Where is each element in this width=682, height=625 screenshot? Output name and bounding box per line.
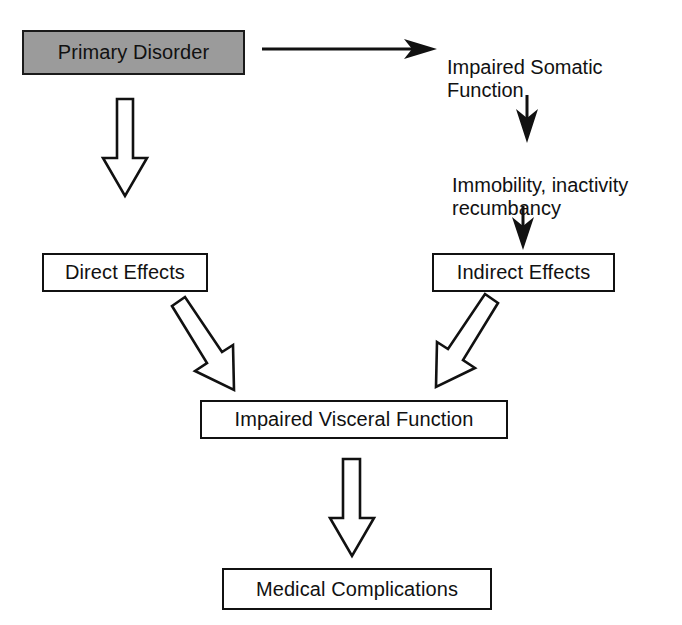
node-impaired-somatic-function-label: Impaired Somatic Function — [447, 56, 603, 102]
node-direct-effects[interactable]: Direct Effects — [42, 253, 208, 292]
node-primary-disorder[interactable]: Primary Disorder — [22, 30, 245, 75]
flowchart-canvas: Primary Disorder Impaired Somatic Functi… — [0, 0, 682, 625]
node-impaired-visceral-function[interactable]: Impaired Visceral Function — [200, 400, 508, 439]
node-indirect-effects[interactable]: Indirect Effects — [432, 253, 615, 292]
arrow-indirect-effects-to-impaired-visceral — [436, 294, 498, 387]
node-primary-disorder-label: Primary Disorder — [58, 41, 210, 64]
node-impaired-visceral-function-label: Impaired Visceral Function — [234, 408, 473, 431]
arrow-direct-effects-to-impaired-visceral — [172, 297, 234, 390]
node-immobility-label: Immobility, inactivity recumbancy — [452, 174, 628, 220]
arrow-primary-disorder-to-direct-effects — [103, 99, 147, 196]
arrow-primary-disorder-to-impaired-somatic — [262, 39, 437, 59]
node-impaired-somatic-function: Impaired Somatic Function — [447, 32, 662, 103]
arrow-impaired-visceral-to-medical-complications — [330, 459, 374, 556]
node-immobility-inactivity-recumbancy: Immobility, inactivity recumbancy — [452, 150, 677, 221]
node-medical-complications-label: Medical Complications — [256, 578, 458, 601]
node-indirect-effects-label: Indirect Effects — [457, 261, 591, 284]
node-direct-effects-label: Direct Effects — [65, 261, 185, 284]
node-medical-complications[interactable]: Medical Complications — [222, 568, 492, 610]
